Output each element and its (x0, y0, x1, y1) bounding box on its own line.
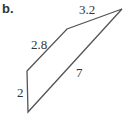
left-side-label: 2 (17, 86, 24, 99)
diagonal-side-label: 7 (76, 66, 83, 79)
quadrilateral-outline (27, 9, 122, 112)
upper-left-side-label: 2.8 (31, 38, 47, 51)
top-side-label: 3.2 (79, 3, 95, 16)
